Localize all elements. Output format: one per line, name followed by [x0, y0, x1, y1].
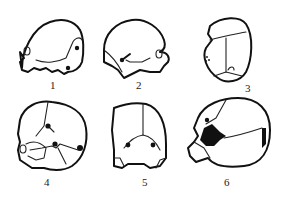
panel-label-5: 5	[142, 177, 148, 188]
skull-panel-5	[112, 103, 166, 168]
skull-panel-1	[20, 20, 83, 74]
panel-label-2: 2	[136, 80, 142, 91]
skull-panel-3	[205, 18, 252, 81]
skull-panel-6	[188, 98, 270, 167]
panel-label-6: 6	[224, 177, 230, 188]
skull-drawings	[0, 0, 288, 197]
skull-panel-4	[18, 102, 86, 170]
panel-label-4: 4	[44, 177, 50, 188]
skull-panel-2	[104, 20, 169, 78]
panel-label-3: 3	[245, 83, 251, 94]
panel-label-1: 1	[50, 80, 56, 91]
